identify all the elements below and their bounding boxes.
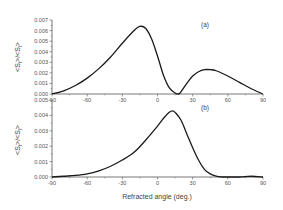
x-axis-title: Refracted angle (deg.) [122,193,192,201]
x-tick-label: 90 [260,97,266,103]
panel-b-label: (b) [201,104,209,112]
y-tick-label: 0.005 [34,97,48,103]
x-tick-label: 30 [190,97,196,103]
x-tick-label: 0 [156,97,159,103]
x-tick-label: 0 [156,180,159,186]
y-tick-label: 0.005 [34,38,48,44]
y-tick-label: 0.004 [34,112,48,118]
x-tick-label: 30 [190,180,196,186]
x-tick-label: 90 [260,180,266,186]
y-tick-label: 0.003 [34,128,48,134]
x-tick-label: -60 [83,97,91,103]
panel-b: 0.0000.0010.0020.0030.0040.005-90-60-300… [34,97,266,186]
y-tick-label: 0.003 [34,59,48,65]
x-tick-label: -90 [48,180,56,186]
y-tick-label: 0.006 [34,28,48,34]
y-axis-title-top: <St>/<Si> [14,42,23,72]
y-tick-label: 0.004 [34,49,48,55]
y-tick-label: 0.002 [34,70,48,76]
data-series-line [52,111,263,177]
y-tick-label: 0.002 [34,143,48,149]
panel-a: 0.0000.0010.0020.0030.0040.0050.0060.007… [34,17,266,103]
x-tick-label: -60 [83,180,91,186]
x-tick-label: 60 [225,180,231,186]
data-series-line [52,26,263,94]
x-tick-label: 60 [225,97,231,103]
x-tick-label: -30 [118,97,126,103]
x-tick-label: -30 [118,180,126,186]
chart-figure: 0.0000.0010.0020.0030.0040.0050.0060.007… [0,0,283,210]
y-tick-label: 0.001 [34,159,48,165]
y-tick-label: 0.001 [34,80,48,86]
y-tick-label: 0.000 [34,174,48,180]
y-tick-label: 0.007 [34,17,48,23]
panel-a-label: (a) [201,21,209,29]
y-axis-title-bottom: <St>/<Si> [14,125,23,155]
